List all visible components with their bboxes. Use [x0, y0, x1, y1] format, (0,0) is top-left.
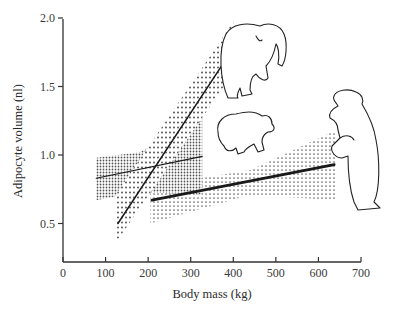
x-tick-label: 300: [182, 266, 200, 280]
chart: 0100200300400500600700 0.51.01.52.0 Body…: [0, 0, 395, 315]
y-axis-title: Adipocyte volume (nl): [11, 84, 25, 198]
bear-standing-icon: [330, 90, 380, 210]
y-tick-label: 1.5: [40, 80, 55, 94]
x-ticks: 0100200300400500600700: [60, 257, 370, 280]
y-tick-label: 2.0: [40, 11, 55, 25]
x-tick-label: 200: [139, 266, 157, 280]
bear-walking-icon: [221, 24, 286, 98]
x-tick-label: 600: [309, 266, 327, 280]
y-tick-label: 1.0: [40, 148, 55, 162]
x-tick-label: 400: [224, 266, 242, 280]
x-tick-label: 700: [352, 266, 370, 280]
confidence-bands: [96, 22, 336, 244]
y-ticks: 0.51.01.52.0: [40, 11, 63, 231]
y-tick-label: 0.5: [40, 217, 55, 231]
x-axis-title: Body mass (kg): [172, 287, 251, 301]
x-tick-label: 500: [267, 266, 285, 280]
x-tick-label: 0: [60, 266, 66, 280]
x-tick-label: 100: [97, 266, 115, 280]
bear-cub-icon: [218, 112, 274, 154]
